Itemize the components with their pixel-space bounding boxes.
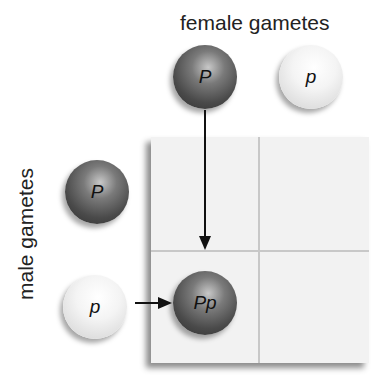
- female-gamete-p: p: [279, 45, 343, 109]
- offspring-Pp: Pp: [173, 271, 237, 335]
- down-arrow-line: [204, 110, 206, 240]
- punnett-square: [151, 137, 369, 363]
- right-arrow-head-icon: [158, 297, 172, 309]
- male-gamete-p: p: [63, 275, 127, 339]
- allele-label: P: [91, 181, 104, 203]
- right-arrow-line: [135, 302, 160, 304]
- allele-label: p: [306, 66, 317, 88]
- allele-label: p: [90, 296, 101, 318]
- male-gametes-label: male gametes: [14, 168, 38, 300]
- grid-horizontal-divider: [151, 250, 369, 252]
- female-gamete-P: P: [173, 45, 237, 109]
- female-gametes-label: female gametes: [180, 11, 329, 35]
- male-gamete-P: P: [65, 160, 129, 224]
- allele-label: P: [199, 66, 212, 88]
- genotype-label: Pp: [193, 292, 216, 314]
- down-arrow-head-icon: [199, 236, 211, 250]
